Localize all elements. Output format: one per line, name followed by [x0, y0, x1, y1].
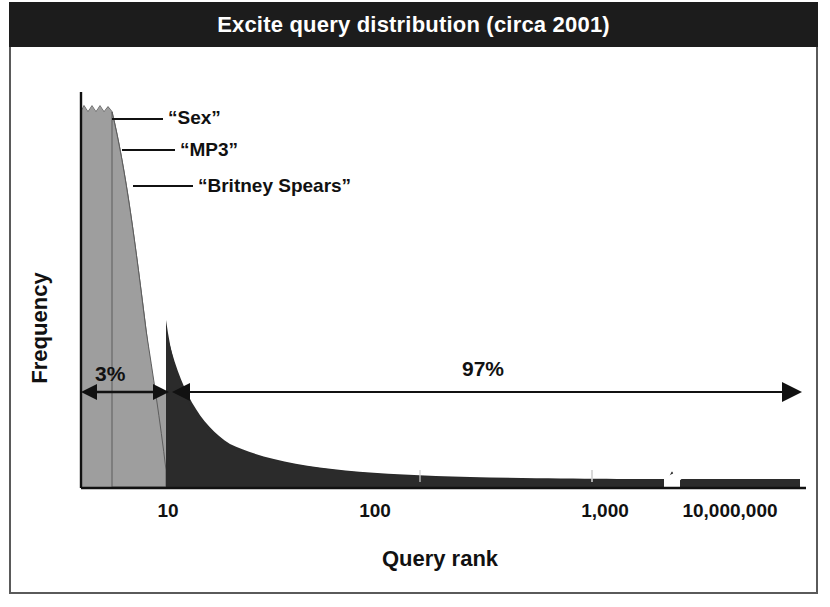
- annotation-label-mp3: “MP3”: [180, 139, 238, 161]
- span-label-head-percent: 3%: [95, 362, 125, 386]
- y-axis-title: Frequency: [27, 243, 53, 413]
- x-tick-label-10000000: 10,000,000: [659, 500, 801, 522]
- head-region: [81, 106, 169, 487]
- span-label-tail-percent: 97%: [462, 357, 504, 381]
- x-tick-label-10: 10: [140, 500, 196, 522]
- x-tick-label-100: 100: [347, 500, 403, 522]
- annotation-label-britney: “Britney Spears”: [198, 175, 351, 197]
- x-tick-label-1000: 1,000: [566, 500, 644, 522]
- span-arrow-tail: [172, 382, 802, 402]
- tail-region: [166, 320, 800, 492]
- annotation-label-sex: “Sex”: [168, 107, 221, 129]
- x-axis-title: Query rank: [340, 546, 540, 572]
- chart-figure: Excite query distribution (circa 2001): [0, 0, 830, 607]
